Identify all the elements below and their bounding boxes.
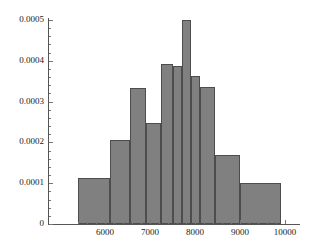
y-axis-tick (49, 142, 53, 143)
x-axis-line (48, 224, 300, 225)
x-axis-minor-tick (141, 222, 142, 224)
x-axis-minor-tick (87, 222, 88, 224)
y-axis-tick-label: 0.0003 (19, 96, 44, 106)
x-axis-minor-tick (159, 222, 160, 224)
y-axis-minor-tick (49, 159, 51, 160)
y-axis-tick (49, 224, 53, 225)
y-axis-minor-tick (49, 191, 51, 192)
y-axis-tick (49, 20, 53, 21)
y-axis-minor-tick (49, 167, 51, 168)
x-axis-minor-tick (123, 222, 124, 224)
y-axis-minor-tick (49, 208, 51, 209)
x-axis-tick (195, 220, 196, 224)
y-axis-minor-tick (49, 69, 51, 70)
y-axis-minor-tick (49, 28, 51, 29)
histogram-bar (146, 123, 162, 224)
y-axis-minor-tick (49, 36, 51, 37)
histogram-bar (173, 66, 182, 224)
x-axis-tick (150, 220, 151, 224)
y-axis-minor-tick (49, 216, 51, 217)
y-axis-tick-label: 0.0005 (19, 14, 44, 24)
x-axis-minor-tick (186, 222, 187, 224)
x-axis-minor-tick (231, 222, 232, 224)
y-axis-minor-tick (49, 200, 51, 201)
histogram-bar (240, 183, 281, 224)
x-axis-minor-tick (114, 222, 115, 224)
y-axis-minor-tick (49, 118, 51, 119)
y-axis-minor-tick (49, 110, 51, 111)
x-axis-minor-tick (177, 222, 178, 224)
y-axis-tick (49, 183, 53, 184)
histogram-chart: 00.00010.00020.00030.00040.0005600070008… (0, 0, 315, 249)
histogram-bar (110, 140, 130, 224)
x-axis-minor-tick (96, 222, 97, 224)
x-axis-minor-tick (267, 222, 268, 224)
y-axis-line (48, 18, 49, 225)
x-axis-minor-tick (276, 222, 277, 224)
y-axis-minor-tick (49, 85, 51, 86)
x-axis-minor-tick (249, 222, 250, 224)
histogram-bar (78, 178, 110, 224)
y-axis-minor-tick (49, 134, 51, 135)
y-axis-minor-tick (49, 77, 51, 78)
x-axis-minor-tick (204, 222, 205, 224)
y-axis-minor-tick (49, 53, 51, 54)
histogram-bar (200, 87, 216, 224)
y-axis-minor-tick (49, 151, 51, 152)
histogram-bar (215, 155, 240, 224)
x-axis-tick (105, 220, 106, 224)
histogram-bar (182, 20, 191, 224)
x-axis-minor-tick (78, 222, 79, 224)
x-axis-minor-tick (213, 222, 214, 224)
y-axis-tick-label: 0.0004 (19, 55, 44, 65)
x-axis-tick (240, 220, 241, 224)
y-axis-minor-tick (49, 93, 51, 94)
x-axis-minor-tick (258, 222, 259, 224)
x-axis-tick-label: 10000 (255, 227, 315, 237)
histogram-bar (161, 64, 172, 224)
y-axis-tick-label: 0 (40, 218, 45, 228)
x-axis-tick (285, 220, 286, 224)
y-axis-minor-tick (49, 175, 51, 176)
y-axis-tick-label: 0.0001 (19, 177, 44, 187)
y-axis-minor-tick (49, 44, 51, 45)
y-axis-tick (49, 61, 53, 62)
y-axis-tick-label: 0.0002 (19, 136, 44, 146)
y-axis-tick (49, 102, 53, 103)
histogram-bar (191, 76, 200, 224)
x-axis-minor-tick (168, 222, 169, 224)
histogram-bar (130, 88, 146, 224)
y-axis-minor-tick (49, 126, 51, 127)
x-axis-minor-tick (222, 222, 223, 224)
x-axis-minor-tick (132, 222, 133, 224)
